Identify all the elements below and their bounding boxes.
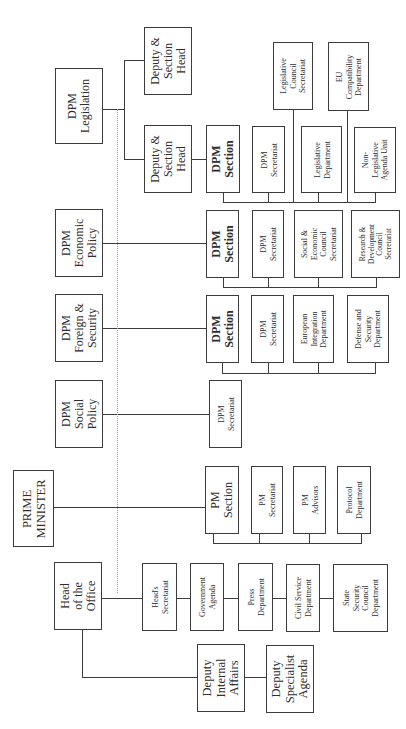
node-label: Non- Legislative Agenda Unit bbox=[361, 139, 390, 180]
connector-line bbox=[103, 243, 206, 244]
node-label: Deputy & Section Head bbox=[149, 37, 188, 85]
node-label: Press Department bbox=[246, 578, 265, 616]
connector-line bbox=[318, 193, 319, 202]
connector-line bbox=[103, 328, 206, 329]
node-label: Deputy Specialist Agenda bbox=[270, 655, 311, 704]
node-social-economic-council-secretariat: Social & Economic Council Secretariat bbox=[294, 210, 343, 278]
node-heads-secretariat: Head's Secretariat bbox=[142, 563, 177, 631]
connector-line bbox=[347, 111, 348, 202]
node-dpm-foreign-security: DPM Foreign & Security bbox=[55, 294, 103, 362]
node-economic-dpm-secretariat: DPM Secretariat bbox=[252, 210, 284, 278]
node-label: Legislative Department bbox=[312, 141, 331, 179]
node-label: DPM Foreign & Security bbox=[60, 303, 99, 353]
node-label: PM Secretariat bbox=[258, 483, 277, 517]
node-label: DPM Legislation bbox=[66, 79, 92, 133]
node-label: Legislative Council Secretariat bbox=[279, 58, 308, 94]
connector-line bbox=[223, 287, 377, 288]
node-label: Head's Secretariat bbox=[150, 580, 169, 614]
node-label: Defense and Security Department bbox=[354, 309, 383, 349]
node-civil-service-department: Civil Service Department bbox=[286, 564, 320, 632]
connector-line bbox=[293, 110, 294, 202]
node-protocol-department: Protocol Department bbox=[337, 466, 371, 534]
connector-line bbox=[222, 373, 376, 374]
connector-line bbox=[192, 159, 206, 160]
connector-line bbox=[376, 278, 377, 287]
connector-line bbox=[223, 193, 224, 202]
node-dpm-legislation: DPM Legislation bbox=[55, 68, 103, 144]
node-pm-secretariat: PM Secretariat bbox=[251, 466, 283, 534]
connector-line bbox=[103, 414, 209, 415]
node-label: DPM Economic Policy bbox=[60, 219, 99, 268]
node-pm-section: PM Section bbox=[205, 466, 239, 534]
connector-line bbox=[82, 630, 83, 677]
connector-line bbox=[245, 677, 266, 678]
connector-line bbox=[124, 159, 144, 160]
connector-line bbox=[222, 363, 223, 373]
node-research-development-council-secretariat: Research & Development Council Secretari… bbox=[351, 210, 400, 278]
connector-line bbox=[103, 109, 124, 110]
node-label: Protocol Department bbox=[345, 481, 364, 519]
connector-line bbox=[82, 677, 197, 678]
connector-line bbox=[102, 598, 142, 599]
connector-line bbox=[223, 278, 224, 287]
connector-line bbox=[124, 60, 125, 160]
node-deputy-specialist-agenda: Deputy Specialist Agenda bbox=[266, 645, 314, 713]
node-legislative-council-secretariat: Legislative Council Secretariat bbox=[273, 42, 313, 110]
connector-line bbox=[223, 202, 376, 203]
node-government-agenda: Government Agenda bbox=[190, 563, 224, 631]
connector-line bbox=[268, 363, 269, 373]
node-label: State Security Council Department bbox=[342, 579, 380, 617]
node-label: Social & Economic Council Secretariat bbox=[300, 227, 338, 261]
node-label: Government Agenda bbox=[198, 577, 217, 617]
node-legislative-department: Legislative Department bbox=[301, 126, 342, 193]
node-legislation-dpm-secretariat: DPM Secretariat bbox=[252, 126, 285, 193]
connector-line bbox=[268, 278, 269, 287]
node-label: DPM Secretariat bbox=[259, 227, 278, 261]
node-deputy-section-head-1: Deputy & Section Head bbox=[144, 27, 192, 95]
connector-line bbox=[124, 60, 144, 61]
node-european-integration-department: European Integration Department bbox=[293, 295, 334, 363]
node-non-legislative-agenda-unit: Non- Legislative Agenda Unit bbox=[354, 127, 396, 193]
node-label: Deputy & Section Head bbox=[149, 135, 188, 183]
node-dpm-social-policy: DPM Social Policy bbox=[55, 380, 103, 448]
node-pm-advisors: PM Advisors bbox=[293, 466, 326, 534]
node-dpm-economic-policy: DPM Economic Policy bbox=[55, 209, 103, 277]
node-label: Research & Development Council Secretari… bbox=[358, 224, 392, 264]
node-label: DPM Secretariat bbox=[258, 312, 277, 346]
node-head-of-office: Head of the Office bbox=[54, 562, 102, 630]
node-eu-compatibility-department: EU Compatibility Department bbox=[328, 42, 369, 111]
node-label: DPM Secretariat bbox=[259, 142, 278, 176]
connector-line bbox=[375, 363, 376, 373]
connector-line bbox=[318, 363, 319, 373]
node-foreign-dpm-section: DPM Section bbox=[206, 295, 239, 363]
node-foreign-dpm-secretariat: DPM Secretariat bbox=[251, 295, 284, 363]
connector-line bbox=[177, 598, 190, 599]
node-label: DPM Section bbox=[210, 140, 236, 177]
connector-line bbox=[259, 534, 260, 543]
connector-line bbox=[213, 543, 362, 544]
node-label: DPM Social Policy bbox=[60, 399, 99, 430]
node-label: DPM Secretariat bbox=[216, 397, 235, 431]
node-label: DPM Section bbox=[210, 225, 236, 262]
node-label: PRIME MINISTER bbox=[20, 479, 47, 538]
node-social-dpm-secretariat: DPM Secretariat bbox=[209, 380, 242, 448]
node-label: DPM Section bbox=[210, 310, 236, 347]
node-label: European Integration Department bbox=[299, 310, 328, 348]
node-defense-security-department: Defense and Security Department bbox=[347, 295, 389, 363]
connector-line bbox=[213, 534, 214, 543]
connector-line bbox=[54, 507, 205, 508]
connector-line bbox=[320, 598, 333, 599]
node-legislation-dpm-section: DPM Section bbox=[206, 125, 240, 193]
node-economic-dpm-section: DPM Section bbox=[206, 210, 239, 278]
node-deputy-section-head-2: Deputy & Section Head bbox=[144, 125, 192, 193]
dotted-coordination-line bbox=[117, 109, 118, 593]
node-label: PM Advisors bbox=[300, 486, 319, 515]
connector-line bbox=[375, 193, 376, 202]
node-label: EU Compatibility Department bbox=[334, 54, 363, 98]
node-state-security-council-department: State Security Council Department bbox=[333, 564, 388, 632]
node-prime-minister: PRIME MINISTER bbox=[13, 470, 54, 547]
connector-line bbox=[309, 534, 310, 543]
node-deputy-internal-affairs: Deputy Internal Affairs bbox=[197, 644, 245, 712]
node-label: Civil Service Department bbox=[294, 577, 313, 619]
connector-line bbox=[268, 193, 269, 202]
